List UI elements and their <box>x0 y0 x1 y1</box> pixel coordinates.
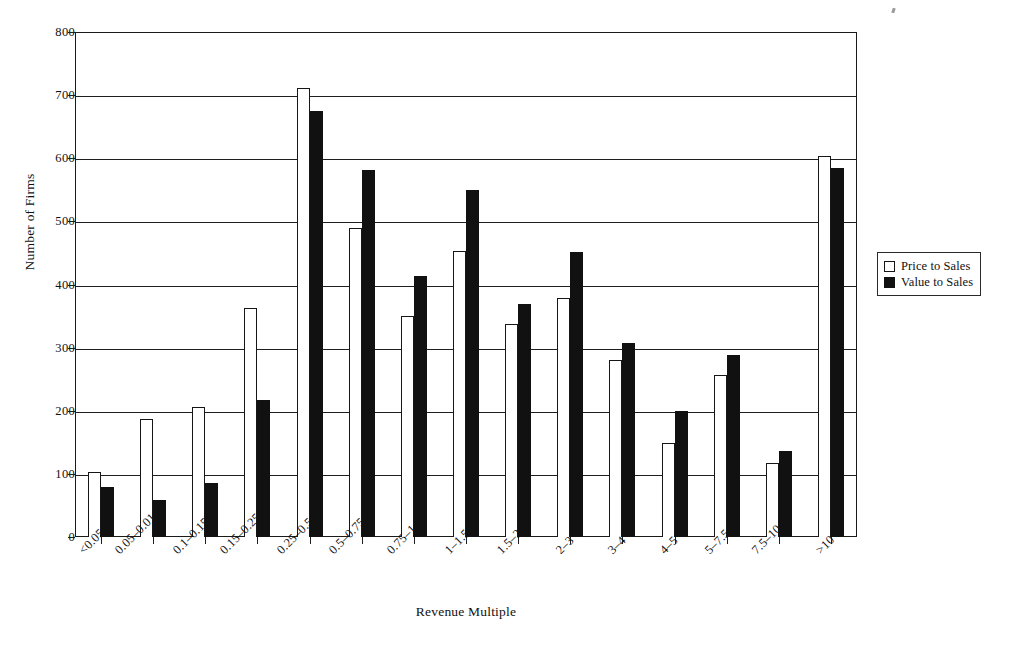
y-tick-mark <box>68 348 75 349</box>
legend-label: Value to Sales <box>901 275 973 290</box>
revenue-multiple-histogram: Number of Firms 800700600500400300200100… <box>0 0 1015 646</box>
y-tick-mark <box>68 474 75 475</box>
y-tick-mark <box>68 158 75 159</box>
x-tick-mark <box>205 537 206 544</box>
y-tick-mark <box>68 32 75 33</box>
gridline <box>76 349 856 350</box>
legend-item: Price to Sales <box>884 258 973 274</box>
y-tick-mark <box>68 285 75 286</box>
y-tick-mark <box>68 411 75 412</box>
x-tick-mark <box>362 537 363 544</box>
x-tick-mark <box>310 537 311 544</box>
x-tick-mark <box>153 537 154 544</box>
scan-artifact-speck <box>891 8 895 14</box>
y-tick-mark <box>68 221 75 222</box>
legend-item: Value to Sales <box>884 274 973 290</box>
y-tick-mark <box>68 537 75 538</box>
chart-legend: Price to SalesValue to Sales <box>877 252 981 296</box>
y-tick-mark <box>68 95 75 96</box>
x-axis-title: Revenue Multiple <box>75 604 857 620</box>
gridline <box>76 96 856 97</box>
legend-label: Price to Sales <box>901 259 970 274</box>
x-tick-mark <box>257 537 258 544</box>
gridline <box>76 412 856 413</box>
y-axis: 8007006005004003002001000 <box>0 32 75 537</box>
gridline <box>76 475 856 476</box>
hollow-square-icon <box>884 261 895 272</box>
gridline <box>76 222 856 223</box>
filled-square-icon <box>884 277 895 288</box>
gridline <box>76 159 856 160</box>
plot-area <box>75 32 857 537</box>
gridline <box>76 286 856 287</box>
